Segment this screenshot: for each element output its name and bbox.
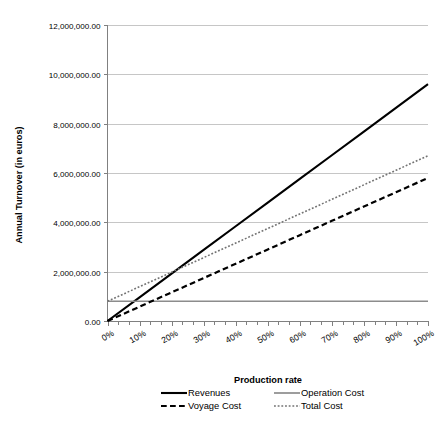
legend-item-voyage-cost: Voyage Cost bbox=[161, 400, 242, 411]
x-tick-label: 10% bbox=[128, 328, 148, 345]
y-tick-label: 10,000,000.00 bbox=[49, 71, 101, 80]
legend-item-revenues: Revenues bbox=[161, 387, 231, 398]
legend-item-total-cost: Total Cost bbox=[274, 400, 343, 411]
y-tick-labels-group: 0.002,000,000.004,000,000.006,000,000.00… bbox=[49, 22, 101, 327]
x-tick-label: 20% bbox=[160, 328, 180, 345]
y-tick-marks-group bbox=[104, 26, 108, 322]
x-tick-labels-group: 0%10%20%30%40%50%60%70%80%90%100% bbox=[100, 328, 436, 348]
x-tick-label: 100% bbox=[411, 328, 435, 348]
y-tick-label: 6,000,000.00 bbox=[53, 170, 101, 179]
y-tick-label: 2,000,000.00 bbox=[53, 269, 101, 278]
x-tick-label: 80% bbox=[352, 328, 372, 345]
y-tick-label: 0.00 bbox=[85, 318, 101, 327]
chart-container: 0.002,000,000.004,000,000.006,000,000.00… bbox=[0, 0, 447, 434]
series-line-total-cost bbox=[108, 156, 429, 302]
legend-item-operation-cost: Operation Cost bbox=[274, 387, 364, 398]
x-tick-label: 50% bbox=[256, 328, 276, 345]
x-tick-label: 60% bbox=[288, 328, 308, 345]
legend-label-operation-cost: Operation Cost bbox=[301, 387, 364, 398]
legend-label-voyage-cost: Voyage Cost bbox=[188, 400, 242, 411]
y-axis-title: Annual Turnover (in euros) bbox=[14, 126, 24, 243]
series-line-revenues bbox=[108, 84, 429, 321]
legend-label-revenues: Revenues bbox=[188, 387, 231, 398]
x-tick-label: 90% bbox=[384, 328, 404, 345]
x-tick-label: 40% bbox=[224, 328, 244, 345]
x-tick-label: 30% bbox=[192, 328, 212, 345]
turnover-line-chart: 0.002,000,000.004,000,000.006,000,000.00… bbox=[0, 0, 447, 434]
y-tick-label: 4,000,000.00 bbox=[53, 219, 101, 228]
y-tick-label: 12,000,000.00 bbox=[49, 22, 101, 31]
gridlines-group bbox=[108, 26, 429, 273]
legend: RevenuesOperation CostVoyage CostTotal C… bbox=[161, 387, 364, 411]
series-line-voyage-cost bbox=[108, 178, 429, 321]
x-tick-label: 0% bbox=[100, 328, 116, 343]
legend-label-total-cost: Total Cost bbox=[301, 400, 343, 411]
x-axis-title: Production rate bbox=[234, 375, 302, 385]
series-group bbox=[108, 84, 429, 321]
y-tick-label: 8,000,000.00 bbox=[53, 121, 101, 130]
x-tick-label: 70% bbox=[320, 328, 340, 345]
